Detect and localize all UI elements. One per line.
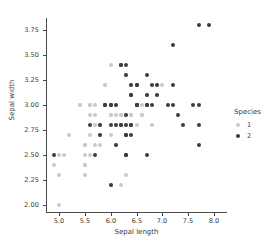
data-point xyxy=(98,133,102,137)
legend-item-label: 2 xyxy=(247,132,251,140)
data-point xyxy=(88,123,92,127)
data-point xyxy=(155,93,159,97)
data-point xyxy=(207,23,211,27)
data-point xyxy=(114,113,118,117)
data-point xyxy=(67,133,71,137)
data-point xyxy=(98,123,102,127)
legend-title: Species xyxy=(234,108,275,116)
data-point xyxy=(114,143,118,147)
legend-item-label: 1 xyxy=(247,121,251,129)
data-point xyxy=(197,23,201,27)
x-tick-mark xyxy=(214,213,215,216)
data-point xyxy=(83,153,87,157)
data-point xyxy=(83,163,87,167)
data-point xyxy=(93,123,97,127)
data-point xyxy=(88,153,92,157)
data-point xyxy=(150,123,154,127)
data-point xyxy=(166,103,170,107)
data-point xyxy=(78,103,82,107)
data-point xyxy=(171,103,175,107)
data-point xyxy=(145,73,149,77)
data-point xyxy=(109,183,113,187)
data-point xyxy=(197,123,201,127)
data-point xyxy=(109,103,113,107)
data-point xyxy=(114,123,118,127)
data-point xyxy=(57,173,61,177)
data-point xyxy=(62,153,66,157)
data-point xyxy=(197,103,201,107)
data-point xyxy=(160,83,164,87)
data-point xyxy=(109,123,113,127)
x-tick-mark xyxy=(111,213,112,216)
data-point xyxy=(93,103,97,107)
data-point xyxy=(88,113,92,117)
data-point xyxy=(57,203,61,207)
data-point xyxy=(98,143,102,147)
data-point xyxy=(93,113,97,117)
y-tick-label: 2.25 xyxy=(0,176,39,184)
data-point xyxy=(129,123,133,127)
data-point xyxy=(114,103,118,107)
x-tick-label: 8.0 xyxy=(199,217,229,225)
x-tick-mark xyxy=(59,213,60,216)
data-point xyxy=(119,183,123,187)
legend-swatch-icon xyxy=(236,123,240,127)
data-point xyxy=(197,143,201,147)
x-tick-mark xyxy=(85,213,86,216)
data-point xyxy=(88,133,92,137)
data-point xyxy=(124,153,128,157)
y-axis-label: Sepal width xyxy=(8,60,16,140)
data-point xyxy=(135,83,139,87)
scatter-chart-figure: 2.002.252.502.753.003.253.503.75 5.05.56… xyxy=(0,0,275,246)
data-point xyxy=(191,103,195,107)
data-point xyxy=(181,123,185,127)
y-tick-label: 2.50 xyxy=(0,151,39,159)
data-point xyxy=(129,133,133,137)
data-point xyxy=(52,163,56,167)
data-point xyxy=(119,113,123,117)
x-axis-label: Sepal length xyxy=(46,228,227,236)
data-point xyxy=(150,103,154,107)
data-point xyxy=(145,153,149,157)
data-point xyxy=(119,63,123,67)
data-point xyxy=(124,73,128,77)
data-point xyxy=(119,123,123,127)
data-point xyxy=(124,133,128,137)
data-point xyxy=(93,143,97,147)
data-point xyxy=(140,113,144,117)
data-point xyxy=(135,103,139,107)
data-point xyxy=(140,103,144,107)
data-point xyxy=(129,83,133,87)
data-point xyxy=(150,83,154,87)
plot-area xyxy=(46,18,227,212)
data-point xyxy=(109,63,113,67)
data-point xyxy=(155,83,159,87)
data-point xyxy=(124,63,128,67)
data-point xyxy=(135,123,139,127)
x-tick-mark xyxy=(137,213,138,216)
data-point xyxy=(109,113,113,117)
x-tick-mark xyxy=(162,213,163,216)
data-point xyxy=(124,113,128,117)
data-point xyxy=(103,103,107,107)
data-point xyxy=(171,83,175,87)
y-tick-label: 3.75 xyxy=(0,26,39,34)
legend-item-1[interactable]: 1 xyxy=(232,119,275,130)
y-tick-label: 2.00 xyxy=(0,201,39,209)
data-point xyxy=(109,133,113,137)
y-tick-label: 3.25 xyxy=(0,76,39,84)
data-point xyxy=(88,103,92,107)
data-point xyxy=(83,173,87,177)
y-tick-label: 3.50 xyxy=(0,51,39,59)
data-point xyxy=(145,93,149,97)
data-point xyxy=(52,153,56,157)
data-point xyxy=(129,93,133,97)
data-point xyxy=(176,113,180,117)
legend: Species 12 xyxy=(232,108,275,141)
y-tick-label: 2.75 xyxy=(0,126,39,134)
legend-item-2[interactable]: 2 xyxy=(232,130,275,141)
x-tick-mark xyxy=(188,213,189,216)
data-point xyxy=(129,113,133,117)
data-point xyxy=(93,153,97,157)
data-point xyxy=(124,173,128,177)
